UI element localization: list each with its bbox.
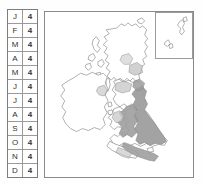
outer-hebrides-mid <box>88 53 95 61</box>
month-value: 4 <box>23 24 37 37</box>
month-value: 4 <box>23 38 37 51</box>
table-row: N 4 <box>8 150 37 164</box>
month-label: M <box>8 38 23 51</box>
skye-island <box>98 59 104 67</box>
fair-isle-group-b <box>169 44 173 49</box>
inset-graphic <box>156 13 192 58</box>
orkney-islands <box>138 18 145 24</box>
outer-hebrides-south <box>85 63 91 70</box>
anglesey-island <box>108 110 113 115</box>
ireland-outline <box>61 72 108 131</box>
month-value: 4 <box>23 136 37 149</box>
phenology-table: J 4 F 4 M 4 A 4 M 4 J 4 J 4 A 4 <box>7 9 38 178</box>
month-value: 4 <box>23 108 37 121</box>
figure-root: J 4 F 4 M 4 A 4 M 4 J 4 J 4 A 4 <box>0 0 202 185</box>
isle-of-man <box>108 102 112 107</box>
month-label: M <box>8 66 23 79</box>
table-row: S 4 <box>8 122 37 136</box>
month-label: J <box>8 10 23 23</box>
month-value: 4 <box>23 52 37 65</box>
table-row: J 4 <box>8 80 37 94</box>
table-row: A 4 <box>8 108 37 122</box>
table-row: O 4 <box>8 136 37 150</box>
month-value: 4 <box>23 164 37 177</box>
month-label: J <box>8 94 23 107</box>
month-label: D <box>8 164 23 177</box>
table-row: A 4 <box>8 52 37 66</box>
shetland-yell <box>183 17 187 22</box>
month-value: 4 <box>23 80 37 93</box>
month-label: A <box>8 108 23 121</box>
month-label: O <box>8 136 23 149</box>
month-label: N <box>8 150 23 163</box>
month-value: 4 <box>23 122 37 135</box>
month-label: J <box>8 80 23 93</box>
shetland-inset <box>155 12 193 59</box>
table-row: J 4 <box>8 10 37 24</box>
month-value: 4 <box>23 94 37 107</box>
month-label: F <box>8 24 23 37</box>
month-label: S <box>8 122 23 135</box>
month-value: 4 <box>23 66 37 79</box>
month-label: A <box>8 52 23 65</box>
month-value: 4 <box>23 150 37 163</box>
table-row: M 4 <box>8 38 37 52</box>
table-row: M 4 <box>8 66 37 80</box>
table-row: F 4 <box>8 24 37 38</box>
month-value: 4 <box>23 10 37 23</box>
shetland-mainland <box>178 20 185 35</box>
outer-hebrides-north <box>92 37 100 53</box>
table-row: J 4 <box>8 94 37 108</box>
table-row: D 4 <box>8 164 37 177</box>
